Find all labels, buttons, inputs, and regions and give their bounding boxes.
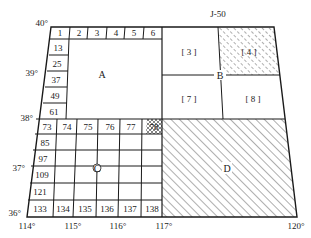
lon-label-117: 117° <box>156 221 173 231</box>
lon-label-115: 115° <box>65 221 82 231</box>
quadrant-4-label: [ 4 ] <box>242 47 257 57</box>
cell-13: 13 <box>54 43 64 53</box>
cell-78: 78 <box>150 122 160 132</box>
quadrant-7-label: [ 7 ] <box>182 94 197 104</box>
lon-label-120: 120° <box>287 221 305 231</box>
cell-137: 137 <box>123 204 137 214</box>
cell-1: 1 <box>58 28 63 38</box>
lat-label-40: 40° <box>35 18 48 28</box>
cell-2: 2 <box>77 28 82 38</box>
lon-label-116: 116° <box>110 221 127 231</box>
region-d-label: D <box>223 163 230 174</box>
cell-134: 134 <box>56 204 70 214</box>
cell-133: 133 <box>33 204 47 214</box>
quadrant-3-label: [ 3 ] <box>182 47 197 57</box>
lat-label-37: 37° <box>12 163 25 173</box>
quadrant-8-label: [ 8 ] <box>246 94 261 104</box>
cell-121: 121 <box>33 187 47 197</box>
cell-135: 135 <box>78 204 92 214</box>
cell-138: 138 <box>145 204 159 214</box>
lat-label-39: 39° <box>25 68 38 78</box>
cell-97: 97 <box>39 154 49 164</box>
cell-74: 74 <box>63 122 73 132</box>
cell-73: 73 <box>43 122 53 132</box>
region-c-label: C <box>94 163 101 174</box>
region-a-label: A <box>98 69 106 80</box>
region-b-label: B <box>217 70 224 81</box>
cell-6: 6 <box>151 28 156 38</box>
cell-109: 109 <box>35 170 49 180</box>
lat-label-36: 36° <box>8 208 21 218</box>
cell-85: 85 <box>41 138 51 148</box>
cell-5: 5 <box>132 28 137 38</box>
cell-25: 25 <box>53 59 63 69</box>
cell-49: 49 <box>51 91 61 101</box>
cell-77: 77 <box>127 122 137 132</box>
cell-37: 37 <box>52 75 62 85</box>
cell-136: 136 <box>100 204 114 214</box>
lon-label-114: 114° <box>19 221 36 231</box>
map-sheet-diagram: J-50 40° 39° 38° 37° 36° 114° 115° 116° … <box>0 0 311 238</box>
sheet-title: J-50 <box>210 9 226 19</box>
cell-75: 75 <box>84 122 94 132</box>
lat-label-38: 38° <box>20 113 33 123</box>
cell-61: 61 <box>50 107 59 117</box>
cell-3: 3 <box>95 28 100 38</box>
cell-4: 4 <box>114 28 119 38</box>
cell-76: 76 <box>106 122 116 132</box>
